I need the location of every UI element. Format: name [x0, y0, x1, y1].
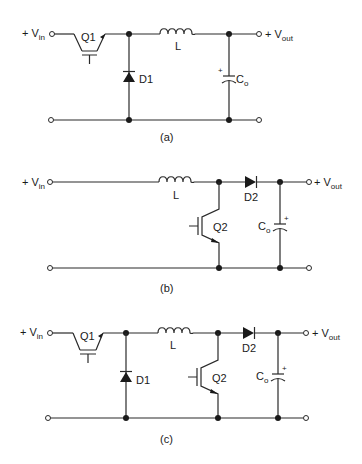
vout-label-c: + Vout	[312, 327, 341, 342]
co-label-a: Co	[236, 73, 249, 88]
d1-diode-icon	[120, 372, 132, 383]
vout-terminal-c	[304, 331, 309, 336]
circuit-c-buck-boost: + Vin Q1 D1 L D2 Q2	[20, 326, 341, 445]
l-label-b: L	[173, 189, 179, 201]
node	[275, 415, 281, 421]
d2-label-c: D2	[242, 342, 256, 354]
q2-label-c: Q2	[212, 372, 227, 384]
vin-terminal-c	[48, 331, 53, 336]
vout-terminal-a	[257, 32, 262, 37]
vin-label-c: + Vin	[20, 326, 43, 341]
co-capacitor-icon	[271, 333, 285, 418]
l-label-c: L	[170, 339, 176, 351]
co-capacitor-icon	[222, 34, 236, 120]
q1-label-a: Q1	[81, 31, 96, 43]
d1-label-c: D1	[136, 374, 150, 386]
vin-label-b: + Vin	[22, 176, 45, 191]
l-label-a: L	[175, 40, 181, 52]
co-polarity-c: +	[282, 364, 287, 373]
gnd-terminal-in-a	[49, 118, 54, 123]
inductor-l-icon	[160, 29, 195, 35]
inductor-l-icon	[159, 177, 194, 183]
vout-terminal-b	[307, 180, 312, 185]
caption-b: (b)	[160, 282, 173, 294]
d1-label-a: D1	[139, 73, 153, 85]
vin-terminal-a	[50, 32, 55, 37]
co-polarity-b: +	[284, 214, 289, 223]
vin-label-a: + Vin	[22, 27, 45, 42]
caption-a: (a)	[160, 131, 173, 143]
gnd-terminal-in-c	[46, 416, 51, 421]
vout-label-b: + Vout	[314, 176, 343, 191]
inductor-l-icon	[158, 328, 193, 334]
co-polarity-a: +	[218, 66, 223, 75]
gnd-terminal-out-a	[257, 118, 262, 123]
node	[277, 265, 283, 271]
gnd-terminal-in-b	[48, 266, 53, 271]
q1-label-c: Q1	[80, 330, 95, 342]
co-label-b: Co	[258, 220, 271, 235]
gnd-terminal-out-c	[304, 416, 309, 421]
converter-schematics: + Vin Q1 D1 L + Co +	[0, 0, 362, 464]
node	[123, 415, 129, 421]
gnd-terminal-out-b	[307, 266, 312, 271]
q2-label-b: Q2	[213, 221, 228, 233]
vout-label-a: + Vout	[265, 28, 294, 43]
circuit-a-buck: + Vin Q1 D1 L + Co +	[22, 27, 294, 143]
co-label-c: Co	[256, 370, 269, 385]
co-capacitor-icon	[273, 182, 287, 268]
node	[215, 415, 221, 421]
node	[126, 117, 132, 123]
d1-diode-icon	[123, 72, 135, 83]
node	[216, 265, 222, 271]
circuit-b-boost: + Vin L D2 Q2 + Co + Vout	[22, 176, 343, 294]
d2-diode-icon	[245, 176, 257, 188]
caption-c: (c)	[160, 433, 173, 445]
node	[226, 117, 232, 123]
vin-terminal-b	[48, 180, 53, 185]
d2-label-b: D2	[244, 191, 258, 203]
d2-diode-icon	[243, 327, 255, 339]
